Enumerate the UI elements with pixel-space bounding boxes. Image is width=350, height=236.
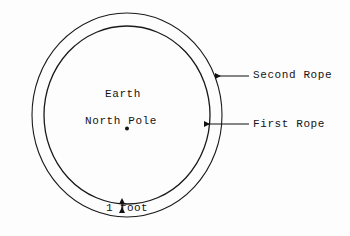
earth-rope-diagram: Earth North Pole Second Rope First Rope …: [0, 0, 350, 236]
gap-measure-label: 1 foot: [106, 203, 148, 214]
earth-label: Earth: [105, 89, 141, 100]
first-rope-label: First Rope: [253, 119, 325, 130]
north-pole-label: North Pole: [85, 116, 157, 127]
north-pole-dot: [125, 127, 129, 131]
second-rope-label: Second Rope: [253, 70, 332, 81]
